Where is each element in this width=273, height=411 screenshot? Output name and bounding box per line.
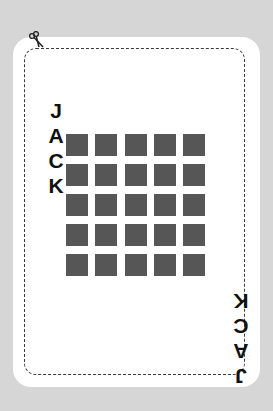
grid-square: [66, 224, 88, 246]
grid-square: [66, 164, 88, 186]
grid-square: [125, 254, 147, 276]
grid-square: [154, 134, 176, 156]
grid-square: [95, 254, 117, 276]
rank-letter: C: [48, 148, 63, 173]
rank-label-top: J A C K: [48, 98, 64, 198]
rank-letter: A: [48, 123, 63, 148]
grid-square: [154, 164, 176, 186]
grid-square: [125, 164, 147, 186]
rank-letter: J: [50, 98, 62, 123]
grid-square: [183, 194, 205, 216]
grid-square: [95, 194, 117, 216]
grid-square: [66, 254, 88, 276]
grid-square: [154, 254, 176, 276]
grid-square: [125, 134, 147, 156]
rank-letter: C: [233, 314, 248, 339]
rank-letter: A: [233, 339, 248, 364]
grid-square: [183, 134, 205, 156]
grid-square: [95, 224, 117, 246]
grid-square: [154, 194, 176, 216]
scissors-icon: [28, 31, 46, 49]
rank-letter: K: [48, 173, 63, 198]
grid-square: [183, 164, 205, 186]
rank-letter: J: [235, 364, 247, 389]
square-grid: [66, 134, 205, 276]
grid-square: [66, 194, 88, 216]
grid-square: [125, 224, 147, 246]
grid-square: [95, 164, 117, 186]
grid-square: [154, 224, 176, 246]
grid-square: [66, 134, 88, 156]
grid-square: [183, 224, 205, 246]
rank-letter: K: [233, 289, 248, 314]
grid-square: [183, 254, 205, 276]
rank-label-bottom: J A C K: [233, 289, 249, 389]
grid-square: [125, 194, 147, 216]
grid-square: [95, 134, 117, 156]
